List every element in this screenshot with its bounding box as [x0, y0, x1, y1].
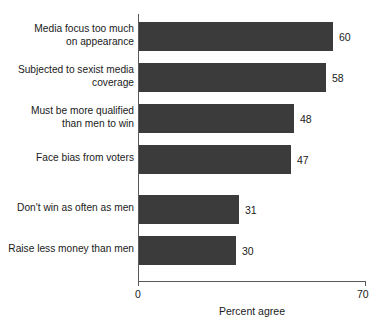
plot-area: 0 70 Percent agree Media focus too much …	[0, 0, 384, 327]
bar-value-label: 60	[339, 31, 351, 43]
x-axis-tick-label-min: 0	[135, 288, 141, 300]
bar-category-label: Don't win as often as men	[0, 202, 134, 215]
x-axis-title: Percent agree	[138, 305, 366, 318]
bar-value-label: 48	[300, 113, 312, 125]
bar-category-label: Must be more qualified than men to win	[0, 105, 134, 130]
bar-chart: 0 70 Percent agree Media focus too much …	[0, 0, 384, 327]
bar-value-label: 58	[332, 72, 344, 84]
bar-value-label: 47	[297, 154, 309, 166]
bar-category-label: Face bias from voters	[0, 152, 134, 165]
bar-value-label: 30	[242, 245, 254, 257]
bar	[139, 63, 326, 92]
x-axis-tick-label-max: 70	[357, 288, 369, 300]
bar	[139, 145, 291, 174]
bar	[139, 195, 239, 224]
bar-category-label: Raise less money than men	[0, 243, 134, 256]
bar-value-label: 31	[245, 204, 257, 216]
bar	[139, 104, 294, 133]
bar-category-label: Media focus too much on appearance	[0, 23, 134, 48]
bar	[139, 236, 236, 265]
x-axis-tick-70	[365, 281, 366, 286]
bar-category-label: Subjected to sexist media coverage	[0, 64, 134, 89]
bar	[139, 22, 333, 51]
x-axis-tick-0	[138, 281, 139, 286]
x-axis-line	[138, 281, 366, 282]
